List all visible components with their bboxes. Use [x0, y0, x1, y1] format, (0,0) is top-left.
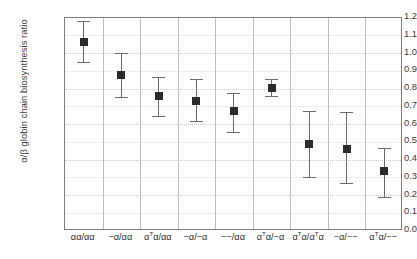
- data-point-group[interactable]: [103, 18, 141, 231]
- error-bar-cap-lower: [77, 62, 90, 63]
- data-point-group[interactable]: [140, 18, 178, 231]
- data-point-group[interactable]: [215, 18, 253, 231]
- data-point-marker[interactable]: [343, 145, 351, 153]
- error-bar-cap-upper: [190, 79, 203, 80]
- data-point-group[interactable]: [253, 18, 291, 231]
- data-point-marker[interactable]: [117, 71, 125, 79]
- chart-container: α/β globin chain biosynthesis ratio 1.21…: [0, 0, 417, 259]
- error-bar-cap-upper: [340, 112, 353, 113]
- data-point-group[interactable]: [65, 18, 103, 231]
- error-bar-cap-lower: [152, 116, 165, 117]
- error-bar-cap-upper: [303, 111, 316, 112]
- error-bar-cap-upper: [115, 53, 128, 54]
- data-point-marker[interactable]: [380, 167, 388, 175]
- data-point-marker[interactable]: [80, 38, 88, 46]
- data-point-marker[interactable]: [268, 84, 276, 92]
- error-bar-cap-lower: [190, 121, 203, 122]
- error-bar-cap-upper: [378, 148, 391, 149]
- plot-area: [64, 17, 402, 230]
- data-point-marker[interactable]: [192, 97, 200, 105]
- data-point-marker[interactable]: [305, 140, 313, 148]
- data-point-group[interactable]: [290, 18, 328, 231]
- error-bar-cap-lower: [378, 197, 391, 198]
- error-bar-cap-lower: [303, 177, 316, 178]
- x-axis-tick-label: αTα/−−: [353, 232, 413, 242]
- data-point-group[interactable]: [365, 18, 403, 231]
- error-bar-cap-upper: [152, 77, 165, 78]
- error-bar-cap-lower: [265, 96, 278, 97]
- y-axis-title: α/β globin chain biosynthesis ratio: [19, 0, 29, 201]
- error-bar-cap-upper: [77, 21, 90, 22]
- error-bar-cap-lower: [340, 183, 353, 184]
- error-bar-cap-lower: [115, 97, 128, 98]
- error-bar-cap-lower: [227, 132, 240, 133]
- error-bar-cap-upper: [227, 93, 240, 94]
- data-point-marker[interactable]: [230, 107, 238, 115]
- error-bar-cap-upper: [265, 79, 278, 80]
- data-point-group[interactable]: [178, 18, 216, 231]
- data-point-group[interactable]: [328, 18, 366, 231]
- data-point-marker[interactable]: [155, 92, 163, 100]
